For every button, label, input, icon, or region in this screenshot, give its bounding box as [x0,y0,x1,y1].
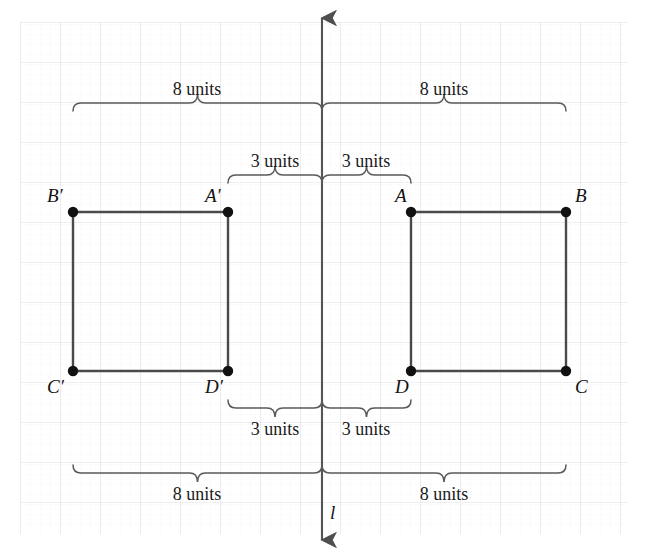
vertex-point-d-prime [223,366,233,376]
vertex-label-a: A [395,186,407,205]
measurement-bottom-left-3: 3 units [230,420,320,438]
vertex-point-a [406,207,416,217]
vertex-label-d-prime: D′ [205,377,223,396]
vertex-dots-abcd-prime [68,207,233,376]
vertex-point-c-prime [68,366,78,376]
measurement-bottom-left-8: 8 units [152,485,242,503]
brace-bottom-left-3 [228,400,322,417]
geometry-figure: ABCDA′B′C′D′ 8 units8 units3 units3 unit… [0,0,647,554]
vertex-point-b [561,207,571,217]
measurement-top-left-3: 3 units [230,152,320,170]
brace-bottom-right-3 [322,400,411,417]
vertex-label-c-prime: C′ [47,377,64,396]
vertex-point-a-prime [223,207,233,217]
vertex-label-d: D [395,377,409,396]
brace-bottom-right-8 [322,465,566,482]
measurement-bottom-right-8: 8 units [399,485,489,503]
vertex-point-d [406,366,416,376]
vertex-dots-abcd [406,207,571,376]
figure-drawing [0,0,647,554]
vertex-label-c: C [575,377,588,396]
vertex-label-a-prime: A′ [205,186,221,205]
brace-bottom-left-8 [73,465,322,482]
measurement-bottom-right-3: 3 units [321,420,411,438]
measurement-top-right-8: 8 units [399,80,489,98]
vertex-point-c [561,366,571,376]
vertex-label-b-prime: B′ [47,186,63,205]
vertex-label-b: B [575,186,587,205]
measurement-top-left-8: 8 units [152,80,242,98]
measurement-top-right-3: 3 units [321,152,411,170]
rectangle-abcd-prime [68,207,233,376]
rectangle-abcd [406,207,571,376]
vertex-point-b-prime [68,207,78,217]
line-l-label: l [330,503,335,522]
